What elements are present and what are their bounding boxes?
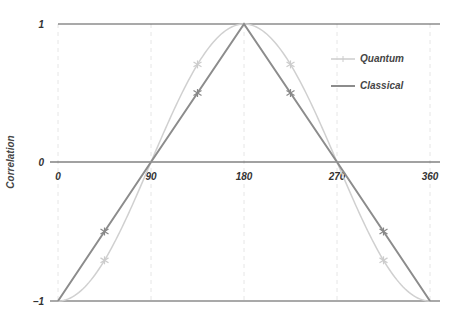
- x-tick-180: 180: [236, 171, 253, 182]
- legend-classical-label: Classical: [360, 80, 404, 91]
- y-tick-0: 0: [38, 157, 44, 168]
- y-axis-label: Correlation: [5, 135, 16, 188]
- x-tick-0: 0: [55, 171, 61, 182]
- legend-quantum-label: Quantum: [360, 53, 404, 64]
- y-tick-1: 1: [38, 19, 44, 30]
- x-tick-360: 360: [422, 171, 439, 182]
- correlation-chart: 1 0 −1 0 90 180 270 360 Correlation Quan…: [0, 0, 456, 323]
- y-tick-minus1: −1: [33, 296, 45, 307]
- legend: Quantum Classical: [331, 53, 404, 91]
